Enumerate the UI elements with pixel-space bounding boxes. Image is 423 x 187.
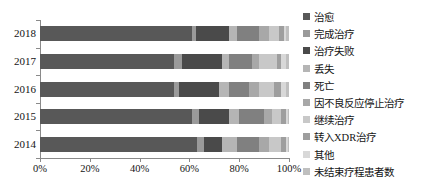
bar-segment [269,137,281,152]
bar-row [40,54,289,69]
legend-item-label: 死亡 [314,78,334,93]
y-axis-tick [36,75,40,76]
bar-segment [204,137,221,152]
x-axis-label: 80% [219,163,259,174]
bar-row [40,109,289,124]
legend-item[interactable]: 治愈 [303,8,423,25]
legend-item-label: 因不良反应停止治疗 [314,95,404,110]
bar-segment [274,82,281,97]
bar-segment [237,26,259,41]
y-axis-label: 2015 [0,109,36,124]
x-axis-label: 0% [20,163,60,174]
legend-item[interactable]: 死亡 [303,77,423,94]
bar-segment [222,137,237,152]
bar-segment [264,109,271,124]
y-axis-label: 2014 [0,137,36,152]
bar-segment [288,137,289,152]
bar-row [40,137,289,152]
bar-segment [192,109,199,124]
x-axis-tick [239,158,240,162]
bar-segment [259,54,276,69]
legend-item[interactable]: 治疗失败 [303,42,423,59]
legend-item[interactable]: 因不良反应停止治疗 [303,94,423,111]
y-axis-label: 2018 [0,26,36,41]
legend: 治愈完成治疗治疗失败丢失死亡因不良反应停止治疗继续治疗转入XDR治疗其他未结束疗… [303,8,423,180]
legend-item[interactable]: 继续治疗 [303,111,423,128]
bar-segment [259,26,269,41]
legend-swatch-icon [303,30,310,37]
bar-segment [229,54,251,69]
bar-row [40,82,289,97]
legend-item-label: 未结束疗程患者数 [314,164,394,179]
bar-segment [179,82,219,97]
bar-segment [237,137,259,152]
legend-item-label: 治愈 [314,9,334,24]
x-axis-label: 40% [120,163,160,174]
legend-item[interactable]: 其他 [303,146,423,163]
legend-swatch-icon [303,65,310,72]
legend-swatch-icon [303,133,310,140]
legend-swatch-icon [303,47,310,54]
bar-segment [286,54,288,69]
x-axis-tick [140,158,141,162]
bar-segment [229,82,249,97]
bar-segment [199,109,229,124]
legend-swatch-icon [303,151,310,158]
bar-row [40,26,289,41]
legend-swatch-icon [303,82,310,89]
bar-segment [286,82,288,97]
bar-segment [40,109,192,124]
bar-segment [239,109,264,124]
bar-segment [288,109,289,124]
bar-segment [197,137,204,152]
bar-segment [229,26,236,41]
x-axis-tick [289,158,290,162]
bar-segment [229,109,239,124]
legend-item-label: 丢失 [314,61,334,76]
bar-segment [286,26,288,41]
bar-segment [259,137,269,152]
legend-swatch-icon [303,13,310,20]
legend-item-label: 转入XDR治疗 [314,129,376,144]
bar-segment [196,26,230,41]
x-axis-tick [40,158,41,162]
x-axis-label: 60% [169,163,209,174]
legend-item-label: 完成治疗 [314,26,354,41]
legend-item[interactable]: 未结束疗程患者数 [303,163,423,180]
legend-item-label: 治疗失败 [314,43,354,58]
legend-swatch-icon [303,168,310,175]
y-axis-label: 2016 [0,82,36,97]
y-axis-tick [36,48,40,49]
stacked-bar-chart: 20182017201620152014 0%20%40%60%80%100% … [0,0,423,187]
y-axis-tick [36,20,40,21]
bar-segment [252,54,259,69]
legend-swatch-icon [303,99,310,106]
bar-segment [40,82,174,97]
bar-segment [40,54,174,69]
legend-item-label: 其他 [314,147,334,162]
bar-segment [219,82,229,97]
bar-segment [269,26,279,41]
legend-item[interactable]: 丢失 [303,60,423,77]
legend-item-label: 继续治疗 [314,112,354,127]
plot-area [40,20,289,158]
legend-swatch-icon [303,116,310,123]
bar-segment [182,54,222,69]
bar-segment [259,82,274,97]
bar-segment [40,137,197,152]
y-axis-tick [36,103,40,104]
legend-item[interactable]: 完成治疗 [303,25,423,42]
y-axis-label: 2017 [0,54,36,69]
bar-segment [40,26,192,41]
y-axis-tick [36,130,40,131]
bar-segment [222,54,229,69]
bar-segment [174,54,181,69]
x-axis-tick [189,158,190,162]
legend-item[interactable]: 转入XDR治疗 [303,128,423,145]
x-axis-tick [90,158,91,162]
bar-segment [249,82,259,97]
x-axis-label: 20% [70,163,110,174]
bar-segment [272,109,282,124]
x-axis-line [40,158,290,159]
